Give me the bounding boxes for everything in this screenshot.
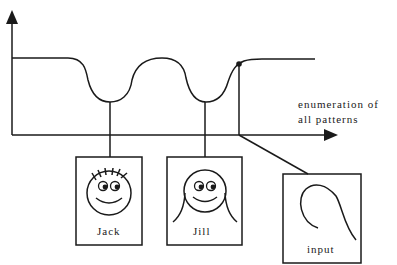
input-connector — [239, 135, 308, 174]
input-hook-icon — [301, 185, 356, 240]
axis-label-line2: all patterns — [298, 113, 359, 125]
input-point-dot — [236, 61, 242, 67]
jill-face-icon — [173, 170, 237, 222]
jack-face-icon — [87, 168, 131, 215]
x-axis-arrow-icon — [324, 129, 338, 141]
input-label: input — [307, 243, 335, 255]
jack-label: Jack — [97, 225, 121, 237]
jill-label: Jill — [193, 225, 210, 237]
y-axis-arrow-icon — [6, 10, 18, 24]
axis-label-line1: enumeration of — [298, 98, 379, 110]
energy-curve — [12, 58, 315, 102]
